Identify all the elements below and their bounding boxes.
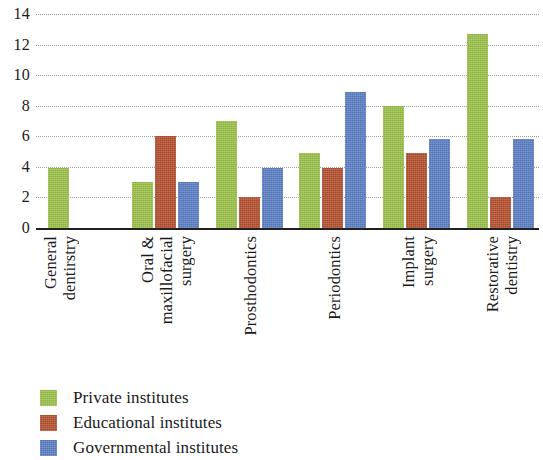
legend-item[interactable]: Governmental institutes [40, 435, 500, 460]
bar [132, 182, 153, 228]
x-axis-label-line: Oral & [138, 236, 157, 283]
legend-label: Educational institutes [73, 413, 222, 432]
y-axis-tick-label: 12 [0, 37, 30, 53]
x-axis-label-line: Implant [399, 236, 418, 288]
x-axis-label-line: dentirstry [60, 236, 79, 300]
x-axis-label-line: General [41, 236, 60, 289]
y-axis-tick-label: 10 [0, 67, 30, 83]
bar-group [371, 14, 455, 228]
bar [178, 182, 199, 228]
bar [216, 121, 237, 228]
bar-group [204, 14, 288, 228]
bar [48, 168, 69, 228]
x-axis-label-line: Restorative [483, 236, 502, 312]
x-axis-labels: GeneraldentirstryOral &maxillofacialsurg… [36, 236, 539, 368]
plot-area [36, 14, 539, 230]
bar [513, 139, 534, 228]
x-axis-group-label: Implantsurgery [399, 236, 437, 368]
bar-group [455, 14, 539, 228]
legend-color-swatch [40, 415, 57, 431]
legend-label: Governmental institutes [73, 438, 238, 457]
bar [155, 136, 176, 228]
legend-color-swatch [40, 390, 57, 406]
bar [490, 197, 511, 228]
bar [345, 92, 366, 228]
bar [239, 197, 260, 228]
y-axis-tick-label: 0 [0, 220, 30, 236]
x-axis-group-label: Periodontics [325, 236, 344, 368]
bar-groups [36, 14, 539, 228]
x-axis-group-label: Restorativedentistry [483, 236, 521, 368]
bar [322, 168, 343, 228]
bar-chart: 02468101214 GeneraldentirstryOral &maxil… [0, 0, 543, 460]
bar [262, 168, 283, 228]
x-axis-label-line: surgery [176, 236, 195, 286]
y-axis-tick-label: 8 [0, 98, 30, 114]
legend-item[interactable]: Educational institutes [40, 410, 500, 435]
bar [429, 139, 450, 228]
x-axis-label-line: Periodontics [325, 236, 344, 320]
legend-color-swatch [40, 440, 57, 456]
x-axis-label-line: maxillofacial [157, 236, 176, 324]
bar-group [120, 14, 204, 228]
y-axis-tick-label: 2 [0, 189, 30, 205]
legend-item[interactable]: Private institutes [40, 385, 500, 410]
bar-group [287, 14, 371, 228]
x-axis-group-label: Prosthodontics [241, 236, 260, 368]
bar-group [36, 14, 120, 228]
bar [383, 106, 404, 228]
x-axis-group-label: Generaldentirstry [41, 236, 79, 368]
x-axis-label-line: surgery [418, 236, 437, 286]
plot-wrapper: 02468101214 [0, 0, 543, 236]
legend-label: Private institutes [73, 388, 189, 407]
bar [406, 153, 427, 228]
bar [467, 34, 488, 228]
x-axis-label-line: Prosthodontics [241, 236, 260, 336]
y-axis-tick-label: 14 [0, 6, 30, 22]
y-axis: 02468101214 [0, 0, 30, 236]
chart-legend: Private institutesEducational institutes… [40, 385, 500, 460]
x-axis-group-label: Oral &maxillofacialsurgery [138, 236, 195, 368]
bar [299, 153, 320, 228]
x-axis-label-line: dentistry [502, 236, 521, 295]
y-axis-tick-label: 6 [0, 128, 30, 144]
y-axis-tick-label: 4 [0, 159, 30, 175]
